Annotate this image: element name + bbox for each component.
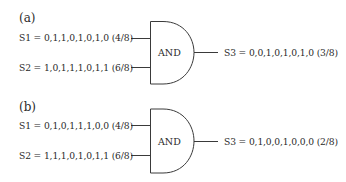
- panel-b-output-s3: S3 = 0,1,0,0,1,0,0,0 (2/8): [224, 137, 338, 146]
- panel-label-a: (a): [19, 12, 36, 24]
- panel-label-b: (b): [19, 101, 36, 113]
- panel-a-output-s3: S3 = 0,0,1,0,1,0,1,0 (3/8): [224, 48, 338, 57]
- panel-b-input-s1: S1 = 0,1,0,1,1,1,0,0 (4/8): [19, 121, 133, 130]
- panel-b-gate-label: AND: [158, 137, 181, 147]
- panel-b-input-s2: S2 = 1,1,1,0,1,0,1,1 (6/8): [19, 151, 133, 160]
- panel-a-input-s2: S2 = 1,0,1,1,1,0,1,1 (6/8): [19, 63, 133, 72]
- panel-a-gate-label: AND: [158, 48, 181, 58]
- panel-a-input-s1: S1 = 0,1,1,0,1,0,1,0 (4/8): [19, 33, 133, 42]
